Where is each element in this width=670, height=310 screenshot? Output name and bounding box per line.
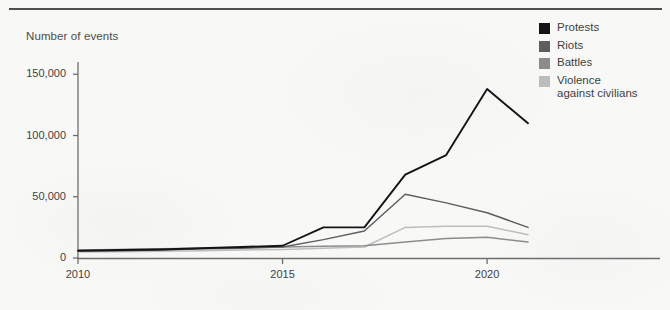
legend-item[interactable]: Protests [539, 21, 665, 35]
legend-swatch-icon [539, 76, 550, 87]
chart-legend: ProtestsRiotsBattlesViolence against civ… [539, 21, 665, 105]
legend-item-label: Violence against civilians [557, 74, 638, 101]
legend-item[interactable]: Riots [539, 39, 665, 53]
chart-figure: Number of events 050,000100,000150,000 2… [0, 0, 670, 310]
x-axis-tick-label: 2015 [253, 268, 313, 280]
x-axis-tick-label: 2010 [48, 268, 108, 280]
chart-series-lines [78, 89, 528, 252]
y-axis-tick-label: 0 [4, 251, 66, 263]
legend-item-label: Battles [557, 56, 592, 70]
x-axis-tick-label: 2020 [457, 268, 517, 280]
series-line-riots [78, 194, 528, 251]
y-axis-ticks [73, 74, 78, 258]
legend-swatch-icon [539, 58, 550, 69]
y-axis-tick-label: 50,000 [4, 190, 66, 202]
legend-swatch-icon [539, 23, 550, 34]
legend-swatch-icon [539, 41, 550, 52]
legend-item[interactable]: Battles [539, 56, 665, 70]
y-axis-tick-label: 100,000 [4, 129, 66, 141]
legend-item-label: Protests [557, 21, 599, 35]
legend-item[interactable]: Violence against civilians [539, 74, 665, 101]
legend-item-label: Riots [557, 39, 583, 53]
y-axis-tick-label: 150,000 [4, 67, 66, 79]
series-line-violence-against-civilians [78, 226, 528, 252]
